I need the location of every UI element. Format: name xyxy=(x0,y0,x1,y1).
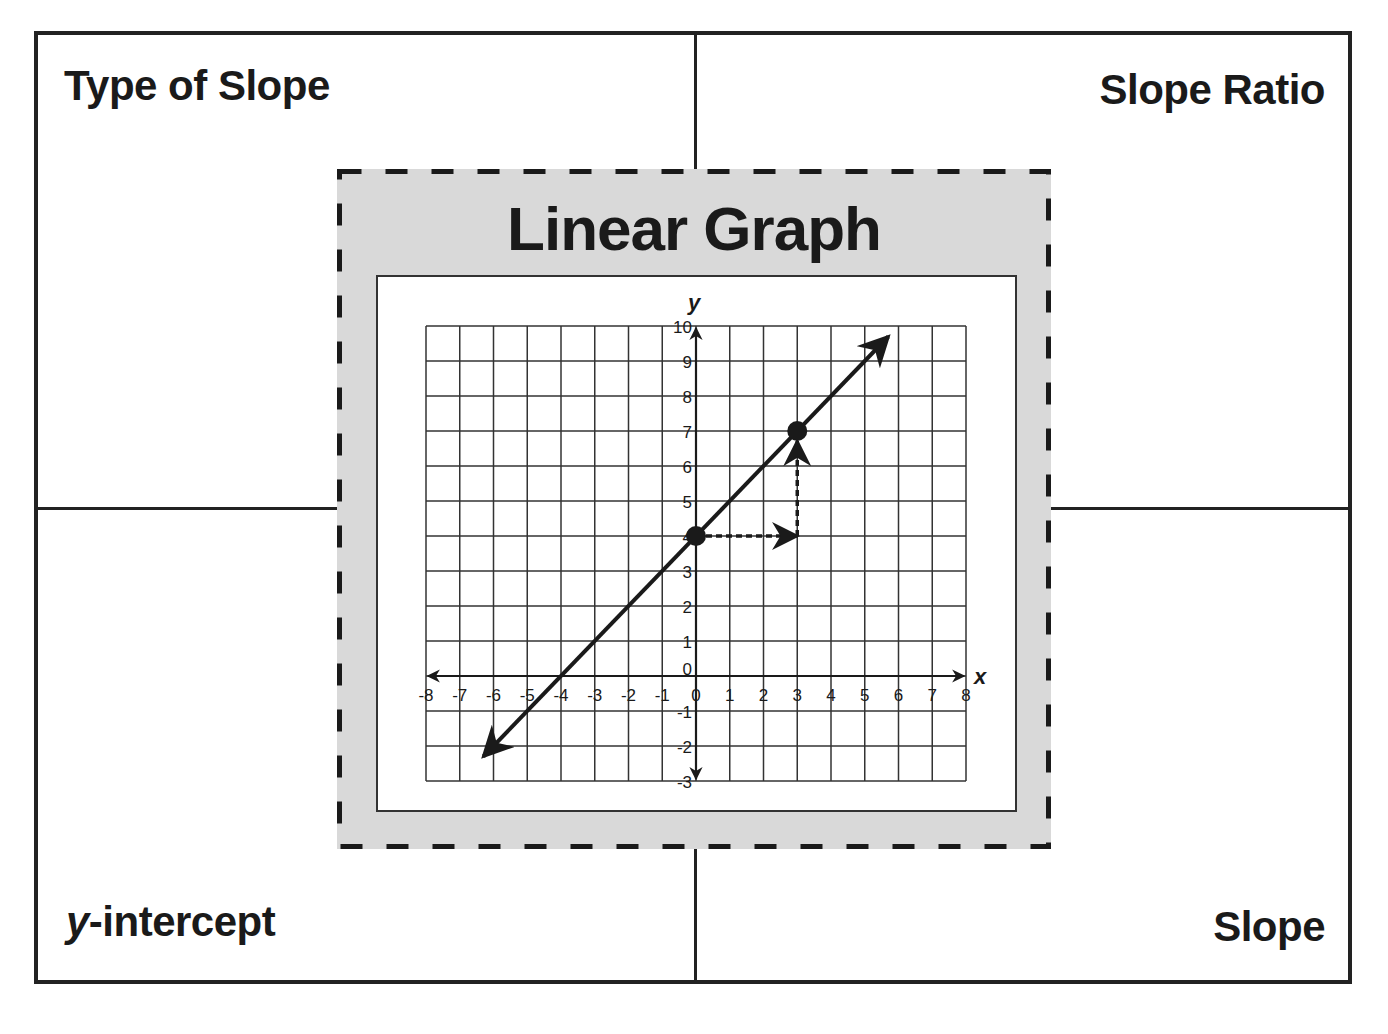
y-tick-label: 0 xyxy=(683,660,692,679)
x-tick-label: -5 xyxy=(520,686,535,705)
x-tick-label: 2 xyxy=(759,686,768,705)
y-tick-label: 5 xyxy=(683,493,692,512)
x-tick-label: 3 xyxy=(793,686,802,705)
y-tick-label: 6 xyxy=(683,458,692,477)
x-tick-label: -2 xyxy=(621,686,636,705)
x-tick-label: -3 xyxy=(587,686,602,705)
card-title: Linear Graph xyxy=(337,193,1051,264)
label-slope: Slope xyxy=(1213,903,1325,951)
y-tick-label: 10 xyxy=(673,318,692,337)
y-tick-label: 8 xyxy=(683,388,692,407)
y-tick-label: 9 xyxy=(683,353,692,372)
x-tick-label: 6 xyxy=(894,686,903,705)
plotted-point xyxy=(686,526,706,546)
y-tick-label: -3 xyxy=(677,773,692,792)
x-axis-label: x xyxy=(973,664,987,689)
x-tick-label: -7 xyxy=(452,686,467,705)
coordinate-plane: xy-8-7-6-5-4-3-2-1012345678-3-2-10123456… xyxy=(378,277,1019,814)
y-axis-label: y xyxy=(687,290,702,315)
y-tick-label: 3 xyxy=(683,563,692,582)
y-tick-label: -1 xyxy=(677,703,692,722)
x-tick-label: 8 xyxy=(961,686,970,705)
plotted-point xyxy=(787,421,807,441)
y-tick-label: 1 xyxy=(683,633,692,652)
x-tick-label: 7 xyxy=(928,686,937,705)
intercept-text: -intercept xyxy=(89,898,275,945)
graph-panel: xy-8-7-6-5-4-3-2-1012345678-3-2-10123456… xyxy=(376,275,1017,812)
y-tick-label: 2 xyxy=(683,598,692,617)
x-tick-label: -6 xyxy=(486,686,501,705)
x-tick-label: 4 xyxy=(826,686,835,705)
x-tick-label: -1 xyxy=(655,686,670,705)
linear-graph-card: Linear Graph xy-8-7-6-5-4-3-2-1012345678… xyxy=(337,169,1051,849)
label-y-intercept: y-intercept xyxy=(66,898,275,946)
x-tick-label: -4 xyxy=(553,686,568,705)
y-tick-label: -2 xyxy=(677,738,692,757)
x-tick-label: 1 xyxy=(725,686,734,705)
x-tick-label: 0 xyxy=(691,686,700,705)
y-variable: y xyxy=(66,898,89,945)
label-slope-ratio: Slope Ratio xyxy=(1099,66,1325,114)
y-tick-label: 7 xyxy=(683,423,692,442)
x-tick-label: 5 xyxy=(860,686,869,705)
x-tick-label: -8 xyxy=(418,686,433,705)
label-type-of-slope: Type of Slope xyxy=(64,62,330,110)
